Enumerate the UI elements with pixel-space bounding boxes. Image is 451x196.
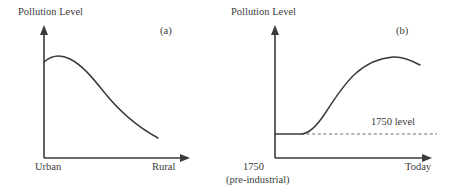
chart-a-panel-tag: (a) <box>160 25 172 36</box>
y-axis-arrow-icon <box>271 25 279 35</box>
pollution-gradient-curve <box>44 56 158 138</box>
chart-panel-a: Pollution Level Urban Rural (a) <box>0 0 225 196</box>
chart-b-y-axis-title: Pollution Level <box>231 6 296 17</box>
chart-a-x-label-right: Rural <box>152 161 175 172</box>
chart-a-y-axis-title: Pollution Level <box>18 6 83 17</box>
chart-b-x-label-right: Today <box>405 161 431 172</box>
chart-panel-b: Pollution Level 1750 (pre-industrial) To… <box>225 0 451 196</box>
chart-a-x-label-left: Urban <box>35 161 61 172</box>
figure-root: Pollution Level Urban Rural (a) Pollutio… <box>0 0 451 196</box>
chart-b-panel-tag: (b) <box>396 25 408 36</box>
x-axis-arrow-icon <box>180 154 190 162</box>
chart-b-x-label-left: 1750 <box>243 161 264 172</box>
chart-b-x-label-left-sublabel: (pre-industrial) <box>226 174 290 185</box>
chart-b-reference-line-label: 1750 level <box>371 116 415 127</box>
chart-a-plot <box>0 0 225 196</box>
y-axis-arrow-icon <box>40 25 48 35</box>
